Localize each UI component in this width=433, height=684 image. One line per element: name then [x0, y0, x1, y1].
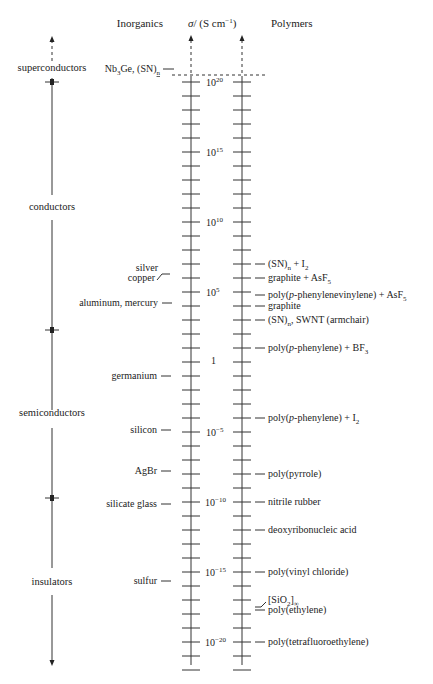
label-polypyrrole: poly(pyrrole) — [268, 468, 321, 480]
label-graphite: graphite — [268, 300, 301, 311]
superconducting-region — [172, 35, 268, 76]
label-ptfe: poly(tetrafluoroethylene) — [268, 636, 369, 648]
inorganic-scale — [182, 76, 200, 670]
header-polymers: Polymers — [271, 17, 313, 29]
label-aluminum-mercury: aluminum, mercury — [79, 297, 158, 308]
boundary-marker — [50, 495, 54, 501]
decade-label-1: 1 — [211, 355, 216, 366]
decade-label-1e15: 1015 — [206, 146, 224, 158]
decade-label-1e10: 1010 — [206, 216, 224, 228]
label-silicon: silicon — [130, 424, 157, 435]
decade-label-1e-15: 10−15 — [205, 566, 226, 578]
label-silicate-glass: silicate glass — [106, 498, 157, 509]
label-nitrile-rubber: nitrile rubber — [268, 496, 321, 507]
category-insulators: insulators — [32, 576, 73, 587]
label-germanium: germanium — [111, 370, 157, 381]
label-ppp-i2: poly(p-phenylene) + I2 — [268, 412, 360, 426]
decade-label-1e5: 105 — [206, 286, 220, 298]
arrow-up-icon — [240, 35, 245, 41]
label-sn-i2: (SN)n + I2 — [268, 258, 309, 272]
category-superconductors: superconductors — [18, 62, 87, 73]
category-conductors: conductors — [29, 201, 75, 212]
boundary-marker — [50, 79, 54, 85]
polymer-scale — [233, 76, 251, 670]
conductivity-scale-chart: Inorganics σ/ (S cm−1) Polymers supercon… — [0, 0, 433, 684]
label-sulfur: sulfur — [134, 575, 158, 586]
decade-label-1e20: 1020 — [206, 76, 224, 88]
decade-labels: 1020 1015 1010 105 1 10−5 10−10 10−15 10… — [205, 76, 226, 648]
label-ppp-bf3: poly(p-phenylene) + BF3 — [268, 342, 369, 356]
arrow-up-icon — [189, 35, 194, 41]
decade-label-1e-20: 10−20 — [205, 636, 226, 648]
header-sigma-unit: σ/ (S cm−1) — [188, 17, 237, 30]
label-pvc: poly(vinyl chloride) — [268, 566, 348, 578]
category-axis: superconductors conductors semiconductor… — [18, 36, 87, 666]
label-graphite-asf5: graphite + AsF5 — [268, 272, 332, 286]
arrow-up-icon — [50, 36, 55, 42]
label-copper: copper — [128, 272, 156, 283]
header-inorganics: Inorganics — [117, 17, 163, 29]
polymer-labels: (SN)n + I2 graphite + AsF5 poly(p-phenyl… — [255, 258, 407, 648]
category-semiconductors: semiconductors — [19, 407, 85, 418]
boundary-marker — [50, 327, 54, 333]
decade-label-1e-5: 10−5 — [206, 426, 224, 438]
arrow-down-icon — [50, 660, 55, 666]
label-agbr: AgBr — [135, 465, 158, 476]
label-nb3ge-sn: Nb3Ge, (SN)n — [105, 63, 161, 77]
label-polyethylene: poly(ethylene) — [268, 604, 326, 616]
inorganic-labels: Nb3Ge, (SN)n silver copper aluminum, mer… — [79, 63, 174, 586]
label-sn-swnt: (SN)n, SWNT (armchair) — [268, 314, 369, 328]
label-dna: deoxyribonucleic acid — [268, 524, 357, 535]
decade-label-1e-10: 10−10 — [205, 496, 226, 508]
